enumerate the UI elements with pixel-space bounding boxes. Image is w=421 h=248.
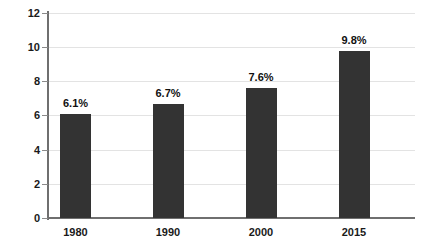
x-tick-label-2015: 2015 (324, 227, 384, 238)
bar-chart: 12 10 8 6 4 2 0 6.1%19806.7%19907.6%2000… (0, 0, 421, 248)
y-tick-label-2: 2 (4, 179, 40, 190)
y-tick-mark-6 (42, 115, 48, 116)
bar-1990[interactable] (153, 104, 184, 218)
y-tick-mark-10 (42, 47, 48, 48)
bar-1980[interactable] (60, 114, 91, 218)
y-tick-label-6: 6 (4, 110, 40, 121)
y-tick-label-0: 0 (4, 213, 40, 224)
y-tick-label-10: 10 (4, 42, 40, 53)
y-tick-label-4: 4 (4, 145, 40, 156)
y-tick-mark-12 (42, 13, 48, 14)
y-tick-mark-8 (42, 81, 48, 82)
bar-value-label-1990: 6.7% (138, 88, 198, 99)
bar-value-label-1980: 6.1% (46, 98, 106, 109)
y-tick-mark-2 (42, 184, 48, 185)
y-tick-label-8: 8 (4, 76, 40, 87)
y-tick-mark-0 (42, 218, 48, 219)
y-tick-mark-4 (42, 150, 48, 151)
x-tick-label-1990: 1990 (138, 227, 198, 238)
y-tick-label-12: 12 (4, 8, 40, 19)
gridline-12 (48, 13, 415, 14)
bar-value-label-2015: 9.8% (324, 35, 384, 46)
x-tick-label-2000: 2000 (231, 227, 291, 238)
bar-2015[interactable] (339, 51, 370, 218)
bar-2000[interactable] (246, 88, 277, 218)
y-axis-labels: 12 10 8 6 4 2 0 (0, 0, 40, 248)
gridline-10 (48, 47, 415, 48)
bar-value-label-2000: 7.6% (231, 72, 291, 83)
x-tick-label-1980: 1980 (46, 227, 106, 238)
